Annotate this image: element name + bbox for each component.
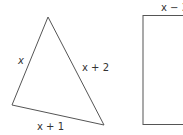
triangle-left-side-label: x [17,55,24,66]
triangle-bottom-side-label: x + 1 [37,121,64,132]
diagram-canvas: x x + 2 x + 1 x − 3 [0,0,183,135]
rectangle-top-side-label: x − 3 [161,2,183,13]
rectangle [143,16,183,125]
triangle-right-side-label: x + 2 [82,62,109,73]
